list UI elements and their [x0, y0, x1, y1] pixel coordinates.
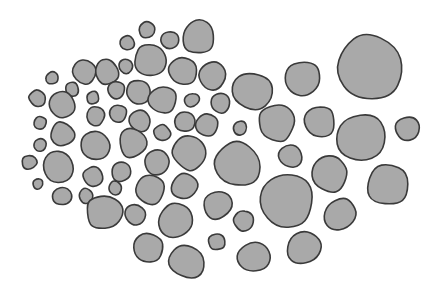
blob-shape [278, 145, 301, 167]
blob-shape [22, 156, 37, 170]
blob-shape [43, 151, 73, 182]
blob-shape [338, 34, 402, 98]
blob-shape [46, 72, 58, 84]
blob-shape [175, 112, 195, 131]
blob-shape [171, 173, 198, 198]
blob-shape [172, 136, 206, 171]
blob-group [22, 20, 419, 278]
blob-shape [324, 198, 356, 230]
blob-shape [233, 211, 253, 231]
blob-shape [145, 150, 169, 175]
blob-shape [312, 156, 347, 192]
blob-diagram [0, 0, 444, 297]
blob-shape [83, 167, 103, 187]
blob-shape [34, 139, 46, 152]
blob-shape [159, 203, 193, 237]
blob-shape [49, 92, 75, 118]
blob-shape [127, 81, 150, 104]
blob-shape [233, 121, 246, 135]
blob-shape [134, 233, 163, 262]
blob-shape [125, 205, 146, 225]
blob-shape [33, 179, 43, 189]
blob-shape [168, 58, 196, 85]
blob-shape [119, 59, 133, 73]
blob-shape [395, 117, 419, 140]
blob-shape [259, 105, 294, 141]
blob-shape [81, 131, 110, 159]
blob-shape [110, 105, 127, 122]
blob-shape [148, 87, 176, 113]
blob-shape [51, 122, 75, 146]
blob-shape [237, 242, 270, 271]
blob-shape [199, 62, 226, 90]
blob-shape [112, 162, 131, 181]
blob-shape [337, 115, 385, 160]
blob-shape [184, 94, 199, 107]
blob-shape [214, 141, 260, 185]
blob-shape [135, 45, 166, 76]
blob-shape [368, 165, 408, 204]
blob-shape [304, 107, 334, 137]
blob-shape [139, 22, 155, 38]
blob-shape [120, 36, 134, 50]
blob-shape [208, 234, 224, 249]
blob-shape [72, 60, 96, 84]
blob-shape [29, 90, 46, 107]
blob-shape [154, 124, 171, 140]
blob-shape [196, 114, 218, 136]
blob-shape [96, 59, 119, 84]
blob-shape [204, 192, 232, 220]
blob-shape [108, 82, 125, 99]
blob-shape [87, 91, 99, 104]
blob-shape [87, 107, 105, 126]
blob-shape [260, 175, 312, 228]
blob-shape [34, 117, 46, 130]
blob-shape [161, 32, 179, 49]
blob-shape [136, 175, 164, 204]
blob-shape [183, 20, 213, 53]
blob-shape [120, 128, 147, 157]
blob-shape [287, 232, 321, 264]
blob-shape [52, 187, 71, 204]
blob-shape [109, 181, 121, 195]
blob-shape [87, 196, 123, 228]
blob-shape [211, 93, 229, 113]
blob-shape [232, 74, 272, 110]
blob-shape [169, 245, 204, 278]
blob-shape [285, 62, 319, 95]
